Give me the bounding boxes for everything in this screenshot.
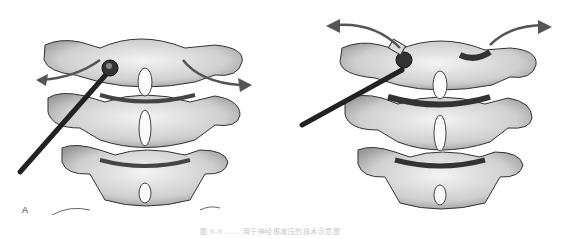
figure-panel-a: A xyxy=(0,0,280,215)
figure-panel-b: B xyxy=(280,0,560,215)
spine-illustration-b xyxy=(280,0,561,215)
spine-illustration-a xyxy=(0,0,280,215)
panel-label-a: A xyxy=(22,205,28,215)
arrow-right-icon xyxy=(238,78,252,92)
arrow-up-right-icon xyxy=(538,20,552,34)
figure-caption: 图 X-X …… 用于神经根减压的技术示意图 xyxy=(130,226,410,236)
arrow-up-left-icon xyxy=(326,19,340,33)
arrow-left-icon xyxy=(36,74,48,86)
